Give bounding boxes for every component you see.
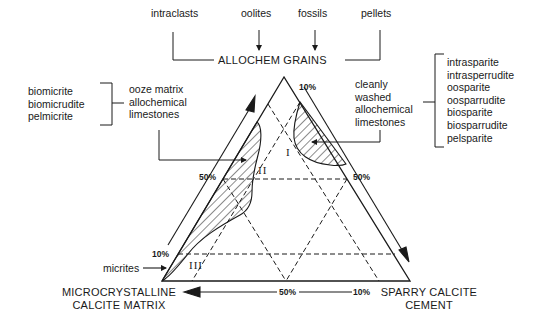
- rock-name: oosparrudite: [447, 94, 514, 107]
- pellets-connector: [345, 30, 380, 60]
- rock-name: pelmicrite: [28, 110, 85, 123]
- right-rock-names: intrasparite intrasperrudite oosparite o…: [447, 56, 514, 144]
- bottom-arrowhead-icon: [184, 287, 200, 297]
- description-line: ooze matrix: [129, 83, 187, 96]
- caption-line: SPARRY CALCITE: [376, 286, 482, 299]
- ooze-matrix-pointer: [159, 130, 246, 160]
- description-line: cleanly: [355, 78, 413, 91]
- percent-10-right-top: 10%: [299, 82, 316, 92]
- description-line: washed: [355, 91, 413, 104]
- percent-10-left: 10%: [152, 249, 169, 259]
- cleanly-washed-description: cleanly washed allochemical limestones: [355, 78, 413, 128]
- left-side-arrowhead-icon: [246, 96, 255, 112]
- caption-line: MICROCRYSTALLINE: [58, 286, 180, 299]
- rock-name: biomicrudite: [28, 98, 85, 111]
- intraclasts-connector: [173, 32, 214, 60]
- label-intraclasts: intraclasts: [151, 7, 198, 20]
- field-label-III: III: [189, 259, 203, 271]
- rock-name: oosparite: [447, 81, 514, 94]
- right-side-arrowhead-icon: [399, 247, 409, 262]
- label-fossils: fossils: [298, 7, 327, 20]
- rock-name: pelsparite: [447, 132, 514, 145]
- vertex-microcrystalline-calcite-matrix: MICROCRYSTALLINE CALCITE MATRIX: [58, 286, 180, 312]
- percent-50-bottom: 50%: [279, 287, 296, 297]
- percent-50-right: 50%: [353, 172, 370, 182]
- rock-name: intrasparite: [447, 56, 514, 69]
- allochem-grains-title: ALLOCHEM GRAINS: [218, 54, 327, 67]
- label-oolites: oolites: [241, 7, 271, 20]
- description-line: allochemical: [129, 96, 187, 109]
- field-label-I: I: [286, 146, 291, 158]
- percent-10-bottom: 10%: [353, 287, 370, 297]
- description-line: allochemical: [355, 103, 413, 116]
- rock-name: biosparite: [447, 106, 514, 119]
- dashed-grid: [178, 102, 395, 281]
- rock-name: biomicrite: [28, 85, 85, 98]
- dashed-v-right: [286, 179, 347, 281]
- left-rock-names: biomicrite biomicrudite pelmicrite: [28, 85, 85, 123]
- hatched-region-sparite: [294, 102, 346, 165]
- description-line: limestones: [129, 108, 187, 121]
- caption-line: CALCITE MATRIX: [58, 299, 180, 312]
- ooze-matrix-description: ooze matrix allochemical limestones: [129, 83, 187, 121]
- rock-name: intrasperrudite: [447, 69, 514, 82]
- percent-50-left: 50%: [199, 172, 216, 182]
- caption-line: CEMENT: [376, 299, 482, 312]
- rock-name: biosparrudite: [447, 119, 514, 132]
- field-label-II: II: [258, 164, 267, 176]
- label-micrites: micrites: [103, 262, 139, 275]
- description-line: limestones: [355, 116, 413, 129]
- label-pellets: pellets: [361, 7, 391, 20]
- ternary-diagram: [0, 0, 549, 333]
- dashed-v-left: [223, 179, 286, 281]
- vertex-sparry-calcite-cement: SPARRY CALCITE CEMENT: [376, 286, 482, 312]
